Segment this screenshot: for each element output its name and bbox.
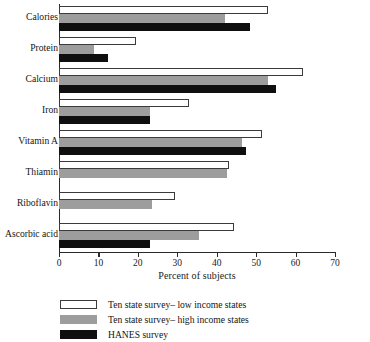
legend-label-1: Ten state survey– low income states — [108, 298, 246, 311]
x-tick-40 — [217, 252, 218, 257]
legend-item-3: HANES survey — [60, 328, 360, 342]
legend-swatch-high — [60, 315, 97, 324]
bar-protein-series-2 — [59, 45, 94, 53]
x-tick-50 — [256, 252, 257, 257]
bar-thiamin-series-1 — [59, 161, 229, 169]
legend-swatch-hanes — [60, 330, 97, 339]
bar-protein-series-3 — [59, 54, 108, 62]
bar-thiamin-series-2 — [59, 169, 227, 177]
bar-iron-series-1 — [59, 99, 189, 107]
x-tick-label-40: 40 — [202, 258, 232, 269]
bar-calcium-series-2 — [59, 76, 268, 84]
x-tick-label-60: 60 — [281, 258, 311, 269]
x-tick-label-20: 20 — [123, 258, 153, 269]
category-label-riboflavin: Riboflavin — [17, 197, 58, 208]
bar-vitamin-a-series-2 — [59, 138, 242, 146]
bar-calories-series-1 — [59, 6, 268, 14]
bar-vitamin-a-series-3 — [59, 147, 246, 155]
bar-ascorbic-acid-series-1 — [59, 223, 234, 231]
bar-calcium-series-3 — [59, 85, 276, 93]
bar-iron-series-2 — [59, 107, 150, 115]
bar-ascorbic-acid-series-3 — [59, 240, 150, 248]
legend-label-2: Ten state survey– high income states — [108, 313, 249, 326]
x-tick-label-10: 10 — [83, 258, 113, 269]
legend-item-1: Ten state survey– low income states — [60, 298, 360, 313]
category-label-calories: Calories — [26, 11, 58, 22]
bar-riboflavin-series-2 — [59, 200, 152, 208]
legend-swatch-low — [60, 300, 97, 309]
bar-calories-series-2 — [59, 14, 225, 22]
bar-protein-series-1 — [59, 37, 136, 45]
x-tick-label-50: 50 — [241, 258, 271, 269]
category-label-protein: Protein — [30, 42, 58, 53]
x-tick-30 — [177, 252, 178, 257]
x-tick-label-0: 0 — [44, 258, 74, 269]
x-tick-60 — [296, 252, 297, 257]
bar-calories-series-3 — [59, 23, 250, 31]
bar-vitamin-a-series-1 — [59, 130, 262, 138]
bar-chart: 010203040506070 Percent of subjects Calo… — [0, 0, 370, 342]
category-label-thiamin: Thiamin — [25, 166, 58, 177]
x-axis-line — [59, 252, 335, 253]
x-tick-10 — [98, 252, 99, 257]
category-label-calcium: Calcium — [25, 73, 58, 84]
x-tick-70 — [335, 252, 336, 257]
legend-label-3: HANES survey — [108, 328, 168, 341]
legend-item-2: Ten state survey– high income states — [60, 313, 360, 328]
bar-riboflavin-series-1 — [59, 192, 175, 200]
bar-iron-series-3 — [59, 116, 150, 124]
x-tick-20 — [138, 252, 139, 257]
x-tick-0 — [59, 252, 60, 257]
x-tick-label-70: 70 — [320, 258, 350, 269]
category-label-vitamin-a: Vitamin A — [18, 135, 58, 146]
category-label-iron: Iron — [42, 104, 58, 115]
bar-ascorbic-acid-series-2 — [59, 231, 199, 239]
x-tick-label-30: 30 — [162, 258, 192, 269]
category-label-ascorbic-acid: Ascorbic acid — [5, 228, 58, 239]
legend: Ten state survey– low income statesTen s… — [60, 298, 360, 342]
x-axis-title: Percent of subjects — [59, 270, 335, 281]
bar-calcium-series-1 — [59, 68, 303, 76]
